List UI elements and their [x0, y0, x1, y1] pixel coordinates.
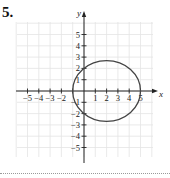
svg-text:−3: −3 — [46, 93, 55, 103]
svg-text:1: 1 — [93, 93, 97, 103]
coordinate-plane: −5−4−3−21234554321−1−2−3−4−5 x y — [0, 0, 170, 178]
svg-text:3: 3 — [76, 52, 80, 62]
svg-text:2: 2 — [104, 93, 108, 103]
svg-text:5: 5 — [76, 30, 80, 40]
svg-text:2: 2 — [76, 63, 80, 73]
svg-text:−5: −5 — [71, 143, 80, 153]
svg-text:−2: −2 — [71, 109, 80, 119]
svg-text:3: 3 — [116, 93, 120, 103]
dotted-separator — [0, 173, 170, 174]
svg-text:−2: −2 — [57, 93, 66, 103]
svg-text:−4: −4 — [34, 93, 44, 103]
x-axis-label: x — [158, 89, 163, 99]
svg-text:−5: −5 — [23, 93, 32, 103]
svg-text:4: 4 — [127, 93, 132, 103]
grid-lines — [16, 22, 153, 157]
svg-text:−3: −3 — [71, 120, 80, 130]
y-axis-label: y — [76, 8, 81, 18]
svg-text:−4: −4 — [71, 131, 81, 141]
axes — [16, 11, 158, 163]
